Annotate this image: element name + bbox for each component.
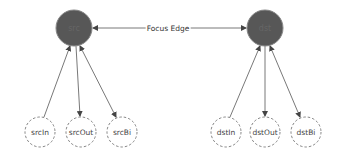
node-srcBi-label: srcBi — [113, 128, 131, 137]
edge-dstIn-dst — [230, 46, 260, 117]
node-dstBi-label: dstBi — [297, 128, 316, 137]
node-srcIn-label: srcIn — [31, 128, 49, 137]
edge-dst-dstBi — [270, 46, 300, 117]
graph-diagram: Focus Edge src dst srcIn srcOut srcBi ds… — [0, 0, 337, 163]
focus-edge-label: Focus Edge — [146, 24, 191, 33]
node-dstOut-label: dstOut — [252, 128, 277, 137]
edge-srcIn-src — [44, 46, 70, 117]
node-srcOut-label: srcOut — [69, 128, 94, 137]
node-dstIn-label: dstIn — [217, 128, 236, 137]
edge-src-srcOut — [76, 46, 80, 116]
edge-src-srcBi — [80, 46, 116, 117]
node-dst-label: dst — [259, 24, 271, 33]
node-src-label: src — [68, 24, 80, 33]
